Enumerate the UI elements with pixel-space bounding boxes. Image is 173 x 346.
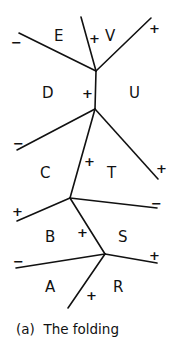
region-d: D [42, 84, 54, 102]
crease-b-a [16, 254, 105, 268]
sign-plus: + [149, 21, 160, 36]
sign-plus: + [77, 225, 88, 240]
region-a: A [45, 278, 56, 296]
figure-caption: (a) The folding [16, 321, 119, 337]
crease-d-u [95, 71, 96, 109]
sign-plus: + [86, 288, 97, 303]
sign-plus: + [89, 31, 100, 46]
region-r: R [113, 278, 123, 296]
region-u: U [129, 84, 140, 102]
region-v: V [105, 27, 116, 45]
crease-c-b [17, 198, 70, 221]
region-c: C [40, 164, 50, 182]
region-e: E [54, 27, 63, 45]
sign-plus: + [82, 86, 93, 101]
sign-minus: − [13, 136, 24, 151]
sign-minus: − [13, 254, 24, 269]
sign-minus: − [11, 35, 22, 50]
folding-diagram: E V D U C T B S A R − + + + − + + + − + … [0, 0, 173, 346]
sign-plus: + [149, 248, 160, 263]
crease-d-c [17, 109, 95, 150]
sign-plus: + [12, 204, 23, 219]
region-t: T [106, 164, 117, 182]
sign-minus: − [151, 196, 162, 211]
sign-plus: + [84, 154, 95, 169]
crease-t-s [70, 198, 157, 208]
region-s: S [118, 228, 128, 246]
sign-plus: + [156, 161, 167, 176]
region-b: B [45, 228, 55, 246]
crease-u-t [95, 109, 158, 179]
